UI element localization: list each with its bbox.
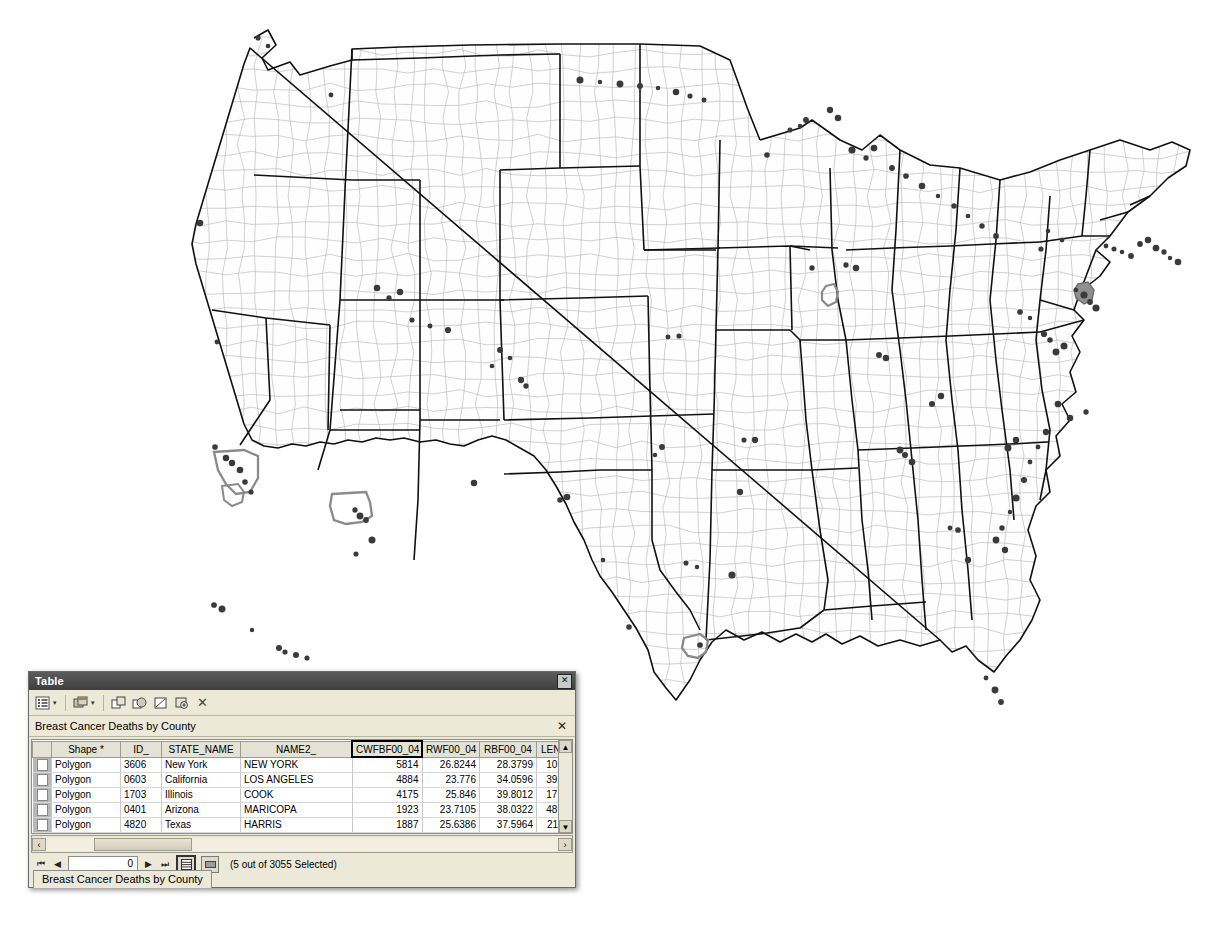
table-toolbar[interactable]: ▾ ▾ [29,690,575,716]
clear-selection-icon[interactable]: ✕ [193,693,212,712]
table-tab-breast-cancer-deaths[interactable]: Breast Cancer Deaths by County [33,870,212,888]
last-record-button[interactable]: ⏭ [159,859,171,870]
table-window-titlebar[interactable]: Table ✕ [29,672,575,690]
cell-name2[interactable]: NEW YORK [241,757,353,772]
county-point-marker [1017,309,1023,315]
cell-name2[interactable]: HARRIS [241,817,353,832]
column-header-name2[interactable]: NAME2_ [241,741,353,757]
cell-cwfbf[interactable]: 1887 [352,817,422,832]
table-row[interactable]: Polygon4820TexasHARRIS188725.638637.5964… [33,817,574,832]
cell-rwf[interactable]: 23.776 [422,772,480,787]
cell-cwfbf[interactable]: 5814 [352,757,422,772]
cell-state[interactable]: Illinois [162,787,241,802]
row-selector-cell[interactable] [33,772,52,787]
cell-rbf[interactable]: 39.8012 [480,787,537,802]
cell-name2[interactable]: MARICOPA [241,802,353,817]
county-point-marker [1055,401,1062,408]
column-header-shape[interactable]: Shape * [52,741,121,757]
cell-state[interactable]: New York [162,757,241,772]
cell-shape[interactable]: Polygon [52,832,121,834]
row-selector-cell[interactable] [33,802,52,817]
hscroll-thumb[interactable] [94,838,192,851]
layer-close-icon[interactable]: ✕ [555,719,569,733]
cell-rbf[interactable]: 38.0322 [480,802,537,817]
cell-shape[interactable]: Polygon [52,817,121,832]
county-point-marker [1104,244,1109,249]
cell-cwfbf[interactable]: 4884 [352,772,422,787]
scroll-up-icon[interactable]: ▲ [559,740,572,753]
cell-cwfbf[interactable]: 1923 [352,802,422,817]
cell-cwfbf[interactable]: 4175 [352,787,422,802]
cell-rwf[interactable]: 25.846 [422,787,480,802]
cell-state[interactable]: Texas [162,817,241,832]
cell-rbf[interactable]: 37.5964 [480,817,537,832]
cell-id[interactable]: 0607 [121,832,162,834]
table-options-caret-icon[interactable]: ▾ [53,699,57,707]
scroll-down-icon[interactable]: ▼ [559,820,572,833]
row-selector-cell[interactable] [33,832,52,834]
move-field-icon[interactable] [109,693,128,712]
cell-id[interactable]: 0401 [121,802,162,817]
switch-selection-icon[interactable] [151,693,170,712]
cell-id[interactable]: 4820 [121,817,162,832]
cell-name2[interactable]: COOK [241,787,353,802]
cell-rbf[interactable]: 31.0977 [480,832,537,834]
column-header-id[interactable]: ID_ [121,741,162,757]
hscroll-left-icon[interactable]: ‹ [32,838,46,851]
hscroll-right-icon[interactable]: › [558,838,572,851]
county-point-marker [497,347,503,353]
cell-shape[interactable]: Polygon [52,802,121,817]
close-icon[interactable]: ✕ [557,674,572,689]
cell-cwfbf[interactable]: 1796 [352,832,422,834]
cell-name2[interactable]: SAN DIEGO [241,832,353,834]
table-options-icon[interactable] [33,693,52,712]
cell-shape[interactable]: Polygon [52,787,121,802]
cell-rbf[interactable]: 34.0596 [480,772,537,787]
table-body[interactable]: Polygon3606New YorkNEW YORK581426.824428… [33,757,574,834]
table-vertical-scrollbar[interactable]: ▲ ▼ [558,740,572,833]
table-row[interactable]: Polygon0401ArizonaMARICOPA192323.710538.… [33,802,574,817]
cell-rbf[interactable]: 28.3799 [480,757,537,772]
attribute-table[interactable]: Shape *ID_STATE_NAMENAME2_CWFBF00_04RWF0… [32,740,573,834]
cell-state[interactable]: California [162,832,241,834]
row-selector-cell[interactable] [33,757,52,772]
zoom-to-selected-icon[interactable] [172,693,191,712]
table-header-row[interactable]: Shape *ID_STATE_NAMENAME2_CWFBF00_04RWF0… [33,741,574,757]
table-grid-wrapper[interactable]: Shape *ID_STATE_NAMENAME2_CWFBF00_04RWF0… [31,739,573,834]
cell-id[interactable]: 1703 [121,787,162,802]
column-header-state[interactable]: STATE_NAME [162,741,241,757]
select-all-icon[interactable] [130,693,149,712]
cell-state[interactable]: California [162,772,241,787]
table-row[interactable]: Polygon0603CaliforniaLOS ANGELES488423.7… [33,772,574,787]
county-point-marker [1021,477,1027,483]
table-horizontal-scrollbar[interactable]: ‹ › [31,835,573,853]
cell-rwf[interactable]: 27.4936 [422,832,480,834]
cell-shape[interactable]: Polygon [52,772,121,787]
table-tab-strip[interactable]: Breast Cancer Deaths by County [29,869,212,888]
cell-id[interactable]: 3606 [121,757,162,772]
next-record-button[interactable]: ▶ [143,859,154,869]
column-header-rbf[interactable]: RBF00_04 [480,741,537,757]
county-point-marker [764,152,770,158]
county-point-marker [1087,299,1093,305]
cell-rwf[interactable]: 23.7105 [422,802,480,817]
cell-rwf[interactable]: 26.8244 [422,757,480,772]
cell-id[interactable]: 0603 [121,772,162,787]
hscroll-track[interactable] [46,838,558,851]
table-row[interactable]: Polygon1703IllinoisCOOK417525.84639.8012… [33,787,574,802]
column-header-rwf[interactable]: RWF00_04 [422,741,480,757]
first-record-button[interactable]: ⏮ [35,859,47,870]
cell-name2[interactable]: LOS ANGELES [241,772,353,787]
row-selector-cell[interactable] [33,817,52,832]
table-window[interactable]: Table ✕ ▾ ▾ [28,671,576,888]
related-tables-caret-icon[interactable]: ▾ [91,699,95,707]
column-header-cwfbf[interactable]: CWFBF00_04 [352,741,422,757]
cell-state[interactable]: Arizona [162,802,241,817]
cell-rwf[interactable]: 25.6386 [422,817,480,832]
related-tables-icon[interactable] [71,693,90,712]
row-selector-cell[interactable] [33,787,52,802]
cell-shape[interactable]: Polygon [52,757,121,772]
previous-record-button[interactable]: ◀ [52,859,63,869]
table-row[interactable]: Polygon3606New YorkNEW YORK581426.824428… [33,757,574,772]
table-row[interactable]: Polygon0607CaliforniaSAN DIEGO179627.493… [33,832,574,834]
